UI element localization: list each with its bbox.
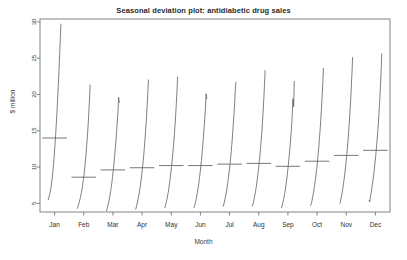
month-series-line: [165, 77, 178, 208]
x-axis-tick-label: Dec: [370, 221, 382, 228]
y-axis-tick-label: 20: [31, 90, 37, 97]
y-axis-tick-label: 10: [31, 163, 37, 170]
month-series-line: [369, 54, 382, 202]
x-axis-tick-label: Nov: [340, 221, 352, 228]
x-axis-tick-label: Jun: [195, 221, 206, 228]
seasonal-deviation-plot: 51015202530JanFebMarAprMayJunJulAugSepOc…: [0, 0, 407, 260]
month-series-line: [223, 82, 236, 206]
y-axis-tick-label: 25: [31, 54, 37, 61]
month-series-line: [311, 68, 324, 205]
month-series-line: [107, 97, 120, 210]
chart-root: Seasonal deviation plot: antidiabetic dr…: [0, 0, 407, 260]
month-series-line: [136, 80, 149, 209]
x-axis-tick-label: Mar: [107, 221, 119, 228]
y-axis-tick-label: 15: [31, 127, 37, 134]
month-series-line: [77, 85, 90, 208]
month-series-line: [252, 71, 265, 207]
x-axis-tick-label: Jul: [225, 221, 234, 228]
month-series-line: [282, 81, 295, 207]
x-axis-tick-label: Sep: [282, 221, 294, 229]
month-series-line: [48, 24, 61, 200]
y-axis-tick-label: 30: [31, 18, 37, 25]
x-axis-tick-label: Oct: [312, 221, 322, 228]
plot-frame: [40, 19, 390, 212]
x-axis-tick-label: May: [165, 221, 178, 229]
x-axis-tick-label: Apr: [137, 221, 148, 229]
x-axis-tick-label: Feb: [78, 221, 90, 228]
x-axis-tick-label: Aug: [253, 221, 265, 229]
month-series-line: [340, 57, 353, 203]
month-series-line: [194, 94, 207, 208]
x-axis-tick-label: Jan: [49, 221, 60, 228]
y-axis-tick-label: 5: [31, 201, 37, 205]
